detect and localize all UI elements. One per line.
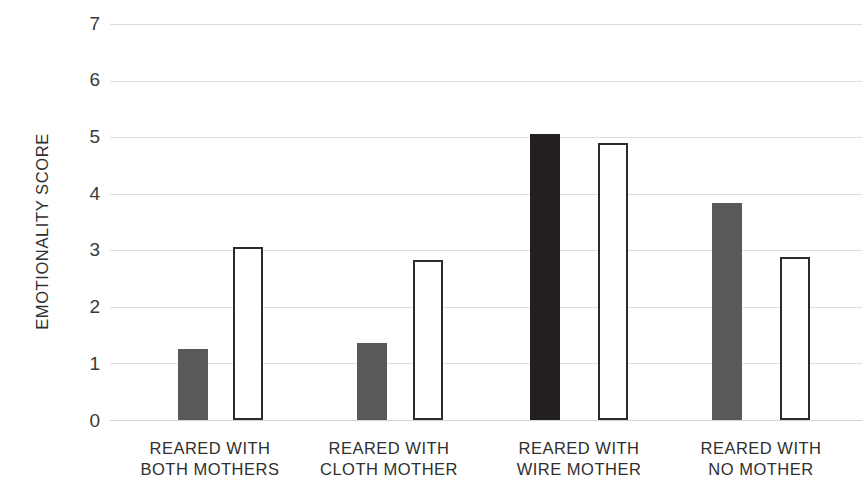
bar-1-outlined bbox=[413, 260, 443, 420]
y-tick-label-6: 6 bbox=[78, 70, 100, 89]
category-label-3-line-1: REARED WITH bbox=[675, 438, 847, 459]
y-tick-label-1: 1 bbox=[78, 354, 100, 373]
gridline-4 bbox=[110, 194, 862, 195]
bar-1-filled bbox=[357, 343, 387, 421]
bar-chart: EMOTIONALITY SCORE 7 6 5 4 3 2 1 0 REARE… bbox=[0, 0, 862, 499]
y-tick-label-3: 3 bbox=[78, 240, 100, 259]
bar-0-filled bbox=[178, 349, 208, 420]
y-tick-label-0: 0 bbox=[78, 411, 100, 430]
category-label-0-line-2: BOTH MOTHERS bbox=[124, 459, 296, 480]
bar-0-outlined bbox=[233, 247, 263, 420]
category-label-3: REARED WITH NO MOTHER bbox=[675, 438, 847, 480]
bar-2-outlined bbox=[598, 143, 628, 420]
category-label-2-line-1: REARED WITH bbox=[493, 438, 665, 459]
bar-3-outlined bbox=[780, 257, 810, 420]
gridline-0 bbox=[110, 420, 862, 421]
category-label-3-line-2: NO MOTHER bbox=[675, 459, 847, 480]
category-label-0-line-1: REARED WITH bbox=[124, 438, 296, 459]
category-label-2: REARED WITH WIRE MOTHER bbox=[493, 438, 665, 480]
gridline-6 bbox=[110, 81, 862, 82]
plot-area bbox=[110, 24, 862, 420]
gridline-7 bbox=[110, 24, 862, 25]
gridline-1 bbox=[110, 363, 862, 364]
y-axis-title: EMOTIONALITY SCORE bbox=[33, 102, 52, 362]
bar-2-filled bbox=[530, 134, 560, 420]
gridline-5 bbox=[110, 137, 862, 138]
bar-3-filled bbox=[712, 203, 742, 420]
gridline-3 bbox=[110, 250, 862, 251]
category-label-2-line-2: WIRE MOTHER bbox=[493, 459, 665, 480]
y-tick-label-4: 4 bbox=[78, 184, 100, 203]
category-label-1-line-1: REARED WITH bbox=[303, 438, 475, 459]
y-tick-label-2: 2 bbox=[78, 297, 100, 316]
category-label-1: REARED WITH CLOTH MOTHER bbox=[303, 438, 475, 480]
y-tick-label-7: 7 bbox=[78, 14, 100, 33]
category-label-1-line-2: CLOTH MOTHER bbox=[303, 459, 475, 480]
category-label-0: REARED WITH BOTH MOTHERS bbox=[124, 438, 296, 480]
gridline-2 bbox=[110, 307, 862, 308]
y-tick-label-5: 5 bbox=[78, 127, 100, 146]
